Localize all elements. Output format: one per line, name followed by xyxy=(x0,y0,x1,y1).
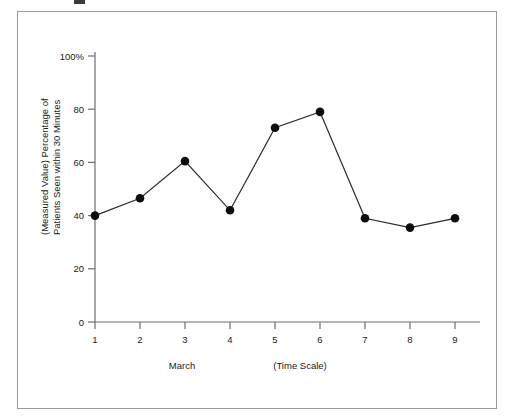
y-tick-label-80: 80 xyxy=(73,104,84,115)
data-point-3 xyxy=(181,157,190,166)
y-axis-title-line-1: (Measured Value) Percentage of xyxy=(39,98,50,235)
x-axis-period-label: March xyxy=(169,360,195,371)
y-tick-label-0: 0 xyxy=(79,317,84,328)
data-point-markers xyxy=(91,108,460,232)
x-tick-label-1: 1 xyxy=(92,334,97,345)
x-tick-label-9: 9 xyxy=(452,334,457,345)
x-tick-label-8: 8 xyxy=(407,334,412,345)
x-axis-title: (Time Scale) xyxy=(273,360,327,371)
y-axis-tick-labels: 0 20 40 60 80 100% xyxy=(60,51,85,328)
x-tick-label-3: 3 xyxy=(182,334,187,345)
y-tick-label-100: 100% xyxy=(60,51,85,62)
x-axis-ticks xyxy=(95,322,455,329)
data-point-9 xyxy=(451,214,460,223)
data-point-5 xyxy=(271,124,280,133)
line-chart: 0 20 40 60 80 100% 1 2 3 4 5 6 7 xyxy=(0,0,515,420)
y-tick-label-40: 40 xyxy=(73,210,84,221)
data-point-2 xyxy=(136,194,145,203)
data-point-8 xyxy=(406,223,415,232)
x-tick-label-5: 5 xyxy=(272,334,277,345)
x-tick-label-7: 7 xyxy=(362,334,367,345)
y-tick-label-60: 60 xyxy=(73,157,84,168)
y-axis-title: (Measured Value) Percentage of Patients … xyxy=(39,98,62,235)
x-tick-label-2: 2 xyxy=(137,334,142,345)
y-tick-label-20: 20 xyxy=(73,263,84,274)
data-point-4 xyxy=(226,206,235,215)
x-tick-label-6: 6 xyxy=(317,334,322,345)
data-point-6 xyxy=(316,108,325,117)
y-axis-ticks xyxy=(88,56,95,322)
data-point-7 xyxy=(361,214,370,223)
data-point-1 xyxy=(91,211,100,220)
x-tick-label-4: 4 xyxy=(227,334,232,345)
y-axis-title-line-2: Patients Seen within 30 Minutes xyxy=(51,100,62,235)
figure-root: 0 20 40 60 80 100% 1 2 3 4 5 6 7 xyxy=(0,0,515,420)
x-axis-tick-labels: 1 2 3 4 5 6 7 8 9 xyxy=(92,334,457,345)
